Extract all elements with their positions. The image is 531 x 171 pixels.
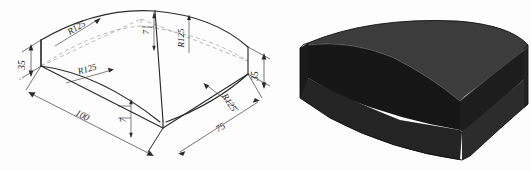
ext-line-100-start (26, 66, 41, 90)
arrowhead-75-end (253, 98, 260, 103)
arrowhead-radius-valley-left (108, 68, 114, 73)
radius-top-right-arc: R125 (176, 15, 191, 54)
dimension-depth-front-7: 7 (118, 99, 133, 138)
arrowhead-depth-front-lower (129, 133, 133, 138)
shaded-solid-drawing (300, 20, 528, 160)
figure-svg: 35 35 (0, 0, 531, 171)
solid-right-end-face (524, 45, 528, 108)
edge-front-valley-arc-left (41, 66, 160, 122)
radius-valley-right: R125 (204, 83, 240, 114)
edge-top-crest-right (155, 11, 248, 47)
hidden-edge-rear-left (41, 19, 141, 66)
dimension-label-100: 100 (74, 108, 91, 123)
dimension-label-depth-top: 7 (141, 29, 151, 34)
edge-top-crest-left (41, 11, 155, 40)
ext-line-right-top (248, 47, 270, 59)
dimension-length-100: 100 (26, 66, 163, 156)
dimension-label-height-left: 35 (17, 60, 27, 71)
dimension-height-right: 35 (248, 47, 270, 89)
visible-edges-group (20, 11, 248, 128)
arrowhead-height-right-top (262, 53, 267, 60)
edge-front-left-bottom (41, 66, 163, 128)
radius-top-left-arc: R125 (55, 18, 101, 46)
isometric-line-drawing: 35 35 (17, 11, 270, 157)
arrowhead-100-start (28, 92, 35, 97)
arrowhead-100-end (146, 151, 153, 156)
figure-root: 35 35 (0, 0, 531, 171)
arrowhead-radius-top-left (94, 18, 101, 24)
radius-label-valley-left: R125 (76, 62, 98, 77)
dimension-depth-top-7: 7 (141, 12, 156, 51)
arrowhead-height-right-bottom (262, 83, 267, 90)
arrowhead-75-start (178, 151, 185, 156)
ext-line-75-start (148, 128, 163, 152)
arrowhead-depth-top-lower (152, 46, 156, 51)
arrowhead-radius-valley-right (204, 83, 210, 89)
radius-label-top-right: R125 (176, 28, 186, 48)
